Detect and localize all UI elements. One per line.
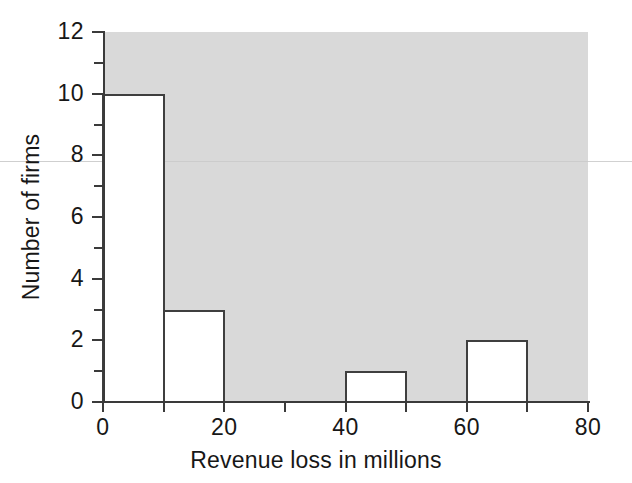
x-axis-tick-label: 80 bbox=[575, 414, 602, 440]
y-axis-tick-major bbox=[92, 216, 103, 218]
y-axis-tick-major bbox=[92, 278, 103, 280]
y-axis-tick-minor bbox=[94, 124, 103, 126]
x-axis-tick-major bbox=[587, 403, 589, 412]
x-axis-title: Revenue loss in millions bbox=[0, 447, 632, 473]
y-axis-tick-label-text: 6 bbox=[71, 205, 84, 228]
x-axis-tick-major bbox=[466, 403, 468, 412]
y-axis-tick-label-text: 12 bbox=[57, 20, 84, 43]
x-axis-tick-minor bbox=[284, 403, 286, 412]
y-axis-title: Number of firms bbox=[18, 134, 44, 301]
y-axis-tick-major bbox=[92, 31, 103, 33]
x-axis-tick-label: 20 bbox=[211, 414, 238, 440]
x-axis-tick-label: 60 bbox=[453, 414, 480, 440]
x-axis-tick-minor bbox=[405, 403, 407, 412]
y-axis-tick-minor bbox=[94, 309, 103, 311]
y-axis-tick-label-text: 0 bbox=[71, 390, 84, 413]
x-axis-tick-label: 40 bbox=[332, 414, 359, 440]
histogram-bar bbox=[345, 371, 408, 402]
histogram-bar bbox=[102, 94, 165, 402]
histogram-bar bbox=[466, 340, 529, 402]
y-axis-tick-minor bbox=[94, 62, 103, 64]
y-axis-tick-major bbox=[92, 339, 103, 341]
scan-artifact-line bbox=[0, 161, 632, 162]
y-axis-tick-minor bbox=[94, 247, 103, 249]
y-axis-line bbox=[103, 31, 105, 403]
x-axis-tick-minor bbox=[163, 403, 165, 412]
x-axis-tick-major bbox=[102, 403, 104, 412]
y-axis-tick-label-text: 2 bbox=[71, 328, 84, 351]
x-axis-tick-minor bbox=[526, 403, 528, 412]
histogram-bar bbox=[163, 310, 226, 403]
x-axis-tick-major bbox=[345, 403, 347, 412]
y-axis-tick-label-text: 8 bbox=[71, 143, 84, 166]
histogram-chart: 024681012020406080 Number of firms Reven… bbox=[0, 0, 632, 483]
y-axis-tick-minor bbox=[94, 185, 103, 187]
y-axis-tick-minor bbox=[94, 370, 103, 372]
y-axis-title-wrap: Number of firms bbox=[16, 32, 46, 402]
x-axis-line bbox=[103, 401, 590, 403]
y-axis-tick-major bbox=[92, 154, 103, 156]
x-axis-tick-major bbox=[223, 403, 225, 412]
y-axis-tick-major bbox=[92, 93, 103, 95]
x-axis-tick-label: 0 bbox=[96, 414, 109, 440]
y-axis-tick-label-text: 4 bbox=[71, 267, 84, 290]
y-axis-tick-label-text: 10 bbox=[57, 82, 84, 105]
